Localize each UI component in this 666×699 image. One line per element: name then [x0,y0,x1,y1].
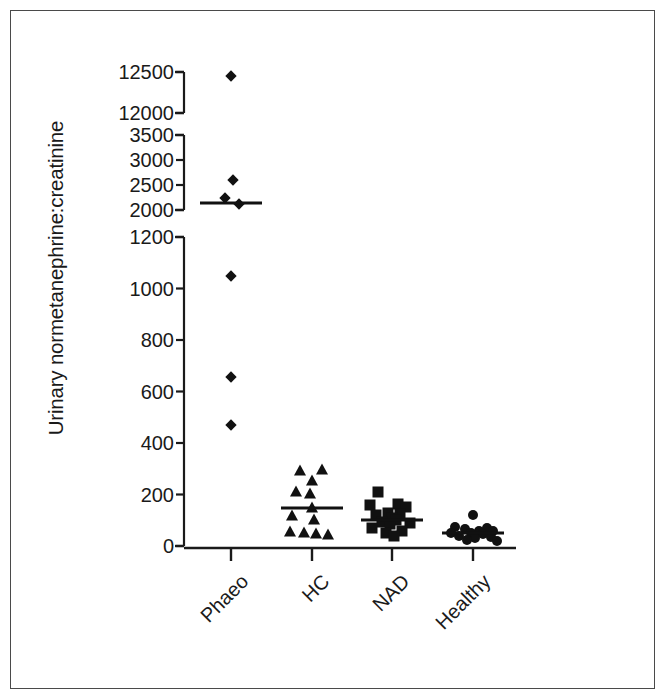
data-point-healthy [492,536,502,546]
data-point-hc [316,463,328,474]
data-point-hc [306,475,318,486]
median-line-nad [361,519,423,522]
data-point-healthy [468,510,478,520]
axes-lines [0,0,666,699]
median-line-phaeo [200,201,262,204]
data-point-hc [290,485,302,496]
data-point-hc [298,526,310,537]
data-point-nad [367,522,378,533]
scatter-plot: Urinary normetanephrine:creatinine 12500… [0,0,666,699]
data-point-hc [304,488,316,499]
data-point-hc [322,529,334,540]
data-point-nad [389,530,400,541]
data-point-hc [284,525,296,536]
data-point-hc [286,510,298,521]
data-point-hc [310,528,322,539]
data-point-healthy [462,535,472,545]
data-point-nad [373,486,384,497]
median-line-healthy [442,532,504,535]
data-point-hc [308,513,320,524]
data-point-hc [294,465,306,476]
median-line-hc [281,506,343,509]
